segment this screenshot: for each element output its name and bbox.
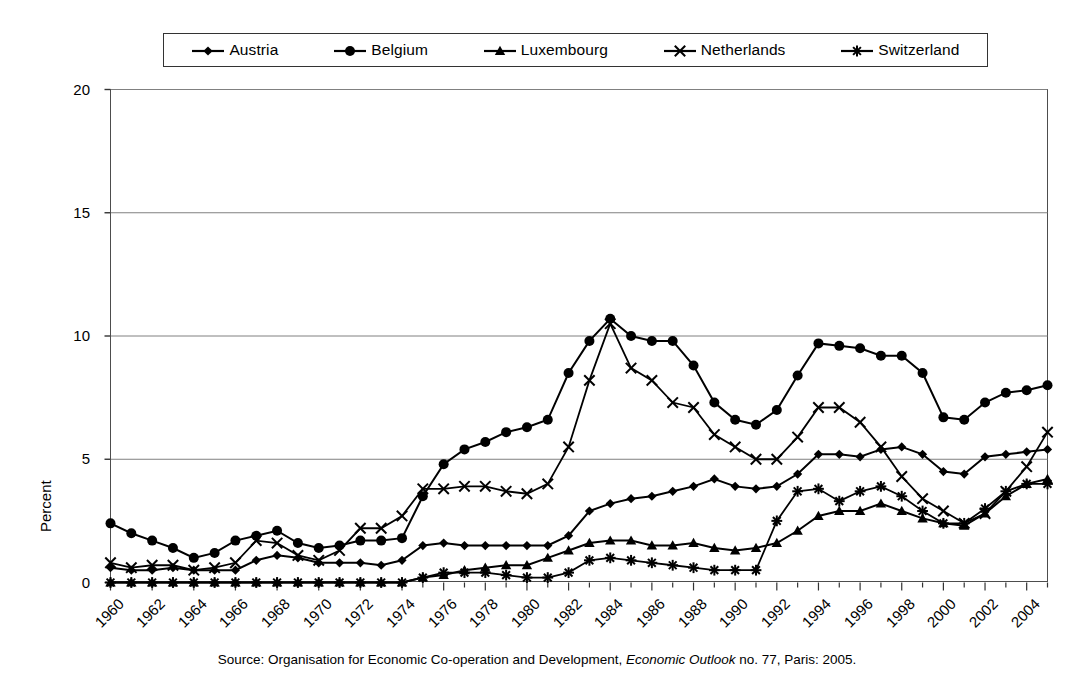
legend-item-switzerland[interactable]: Switzerland [840,41,959,59]
x-tick-label-1960: 1960 [79,595,126,642]
legend-marker-diamond-icon [191,42,225,58]
y-tick-label-20: 20 [46,82,90,97]
x-tick-label-1980: 1980 [496,595,543,642]
legend-marker-asterisk-icon [840,42,874,58]
x-tick-label-1992: 1992 [745,595,792,642]
x-tick-label-2004: 2004 [995,595,1042,642]
legend-item-austria[interactable]: Austria [191,41,278,59]
source-suffix: no. 77, Paris: 2005. [735,652,856,667]
x-tick-label-2002: 2002 [954,595,1001,642]
x-tick-label-1974: 1974 [371,595,418,642]
legend-label: Belgium [369,41,428,59]
x-tick-label-1970: 1970 [287,595,334,642]
legend-item-netherlands[interactable]: Netherlands [663,41,786,59]
y-axis-title: Percent [37,480,54,532]
source-note: Source: Organisation for Economic Co-ope… [0,652,1074,667]
legend-item-luxembourg[interactable]: Luxembourg [483,41,608,59]
x-tick-label-1972: 1972 [329,595,376,642]
legend-marker-triangle-icon [483,42,517,58]
legend-label: Luxembourg [519,41,608,59]
chart-legend: Austria Belgium Luxembourg Netherlands S… [163,33,988,67]
x-tick-label-1996: 1996 [829,595,876,642]
x-tick-label-1998: 1998 [870,595,917,642]
x-tick-label-1982: 1982 [537,595,584,642]
x-tick-label-1962: 1962 [121,595,168,642]
legend-label: Switzerland [876,41,959,59]
y-tick-label-5: 5 [46,451,90,466]
legend-marker-x-icon [663,42,697,58]
source-publication: Economic Outlook [626,652,736,667]
x-tick-label-1966: 1966 [204,595,251,642]
y-tick-label-0: 0 [46,575,90,590]
x-tick-label-1984: 1984 [579,595,626,642]
legend-item-belgium[interactable]: Belgium [333,41,428,59]
legend-marker-circle-icon [333,42,367,58]
plot-area [110,89,1048,582]
x-tick-label-1986: 1986 [621,595,668,642]
x-tick-label-1964: 1964 [162,595,209,642]
y-tick-label-10: 10 [46,328,90,343]
legend-label: Austria [227,41,278,59]
x-tick-label-1994: 1994 [787,595,834,642]
x-tick-label-1978: 1978 [454,595,501,642]
x-tick-label-1968: 1968 [246,595,293,642]
legend-label: Netherlands [699,41,786,59]
x-tick-label-1990: 1990 [704,595,751,642]
chart-figure: Austria Belgium Luxembourg Netherlands S… [0,0,1074,691]
y-tick-label-15: 15 [46,205,90,220]
x-tick-label-1988: 1988 [662,595,709,642]
x-tick-label-2000: 2000 [912,595,959,642]
source-prefix: Source: Organisation for Economic Co-ope… [218,652,626,667]
x-tick-label-1976: 1976 [412,595,459,642]
